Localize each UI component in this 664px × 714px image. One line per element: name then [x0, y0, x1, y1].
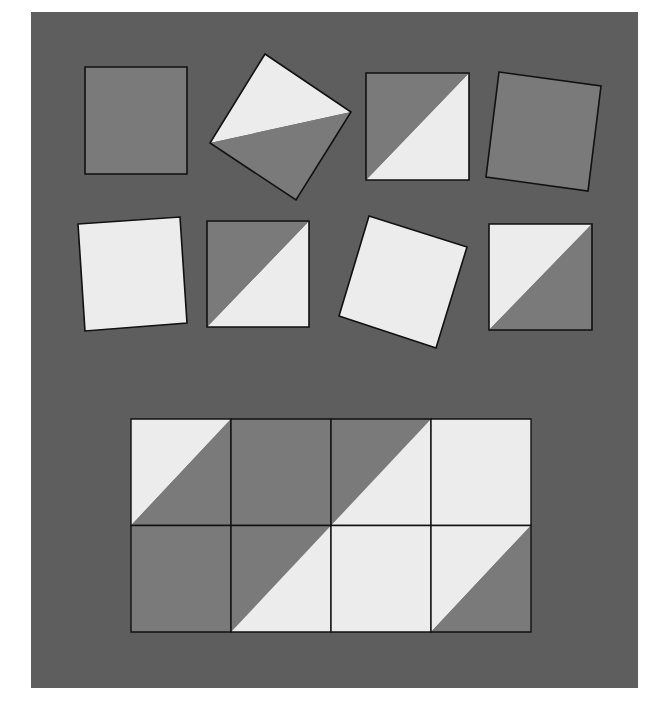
piece-3	[366, 73, 469, 180]
grid-cell	[231, 419, 331, 526]
grid-cell	[331, 526, 431, 633]
piece-1	[85, 67, 187, 174]
dark-fill	[131, 526, 231, 633]
grid-cell	[131, 419, 231, 526]
piece-2	[210, 54, 351, 200]
grid-cell	[131, 526, 231, 633]
piece-7	[339, 216, 467, 348]
assembled-grid	[131, 419, 531, 632]
piece-5	[78, 217, 187, 331]
dark-fill	[231, 419, 331, 526]
grid-cell	[431, 526, 531, 633]
tangram-diagram	[0, 0, 664, 714]
light-square	[78, 217, 187, 331]
grid-cell	[431, 419, 531, 526]
piece-4	[486, 72, 601, 191]
grid-cell	[231, 526, 331, 633]
light-fill	[431, 419, 531, 526]
dark-square	[85, 67, 187, 174]
light-fill	[331, 526, 431, 633]
grid-cell	[331, 419, 431, 526]
light-square	[339, 216, 467, 348]
piece-6	[207, 221, 309, 327]
dark-square	[486, 72, 601, 191]
piece-8	[489, 224, 592, 330]
